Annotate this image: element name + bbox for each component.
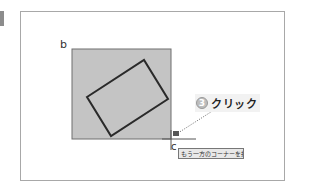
step-callout: 3 クリック: [195, 94, 260, 112]
callout-leader-line: [178, 110, 214, 133]
corner-label-c: c: [171, 141, 177, 152]
step-number-badge: 3: [196, 97, 208, 109]
selection-window: [72, 49, 171, 139]
cursor-pickbox-icon: [173, 131, 179, 136]
step-action-text: クリック: [211, 95, 257, 111]
corner-label-b: b: [60, 38, 67, 51]
command-prompt-tooltip: もう一方のコーナーを指定: [178, 148, 244, 159]
